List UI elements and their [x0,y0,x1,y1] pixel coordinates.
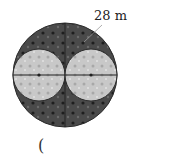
center-dot-right [89,73,92,76]
circle-diagram [0,0,189,168]
dimension-label: 28 m [94,8,127,23]
answer-parenthesis: ( [38,136,44,155]
center-dot-left [37,73,40,76]
